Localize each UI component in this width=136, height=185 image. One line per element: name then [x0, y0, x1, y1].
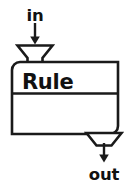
input-port-label: in [26, 6, 43, 25]
rule-diagram: in Rule out [0, 0, 136, 185]
diagram-canvas: in Rule out [0, 0, 136, 185]
output-port-label: out [89, 165, 120, 184]
arrow-down-icon-head-out [99, 155, 109, 163]
arrow-down-icon-head-in [30, 37, 40, 45]
input-arrow-group [30, 23, 40, 45]
rule-title-label: Rule [22, 70, 73, 94]
